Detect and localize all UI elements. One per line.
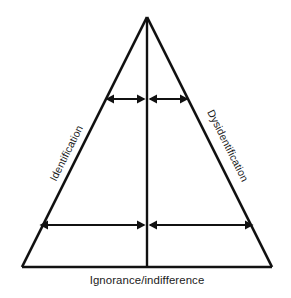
triangle-right-edge — [147, 17, 272, 267]
upper-right-inner-arrowhead — [149, 95, 157, 104]
upper-left-inner-arrowhead — [137, 95, 146, 104]
lower-left-inner-arrowhead — [137, 221, 146, 230]
label-ignorance-indifference: Ignorance/indifference — [90, 274, 205, 286]
diagram-canvas: Identification Dysidentification Ignoran… — [0, 0, 291, 298]
triangle-diagram-figure: Identification Dysidentification Ignoran… — [0, 0, 291, 298]
triangle-left-edge — [22, 17, 147, 267]
lower-right-inner-arrowhead — [149, 221, 157, 230]
